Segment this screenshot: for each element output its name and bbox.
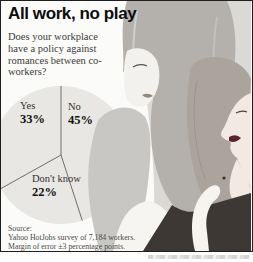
pie-label-yes: Yes 33%	[20, 100, 45, 126]
credit-text-illegible	[148, 255, 250, 259]
pie-label-dont-know: Don't know 22%	[32, 173, 82, 199]
earring	[222, 176, 225, 179]
yes-label: Yes	[20, 100, 45, 112]
yes-percent: 33%	[20, 112, 45, 126]
source-line2: Margin of error ±3 percentage points.	[8, 243, 158, 252]
dont-know-label: Don't know	[32, 173, 82, 185]
pie-label-no: No 45%	[68, 101, 93, 127]
infographic: All work, no play Does your workplace ha…	[0, 0, 253, 262]
survey-question: Does your workplace have a policy agains…	[8, 31, 120, 78]
source-note: Source: Yahoo HotJobs survey of 7,184 wo…	[8, 225, 158, 251]
infographic-panel: All work, no play Does your workplace ha…	[0, 0, 253, 252]
dont-know-percent: 22%	[32, 185, 82, 199]
no-label: No	[68, 101, 93, 113]
no-percent: 45%	[68, 113, 93, 127]
chart-title: All work, no play	[8, 4, 136, 24]
